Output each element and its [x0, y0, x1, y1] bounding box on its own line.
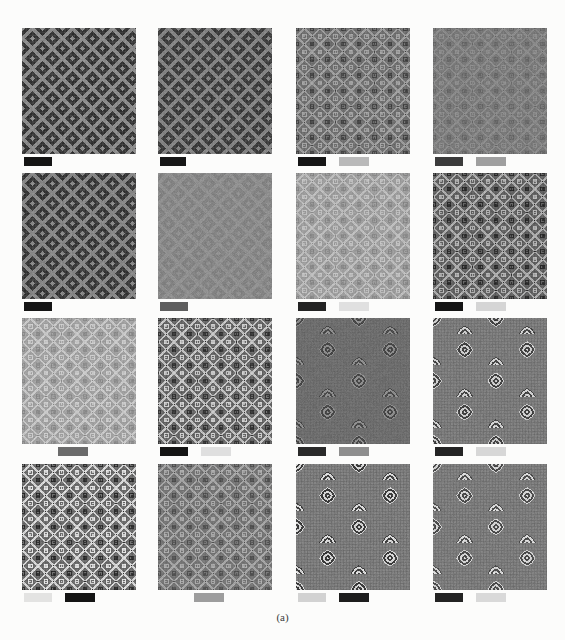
dark-scale-bar [339, 593, 369, 602]
dark-scale-bar [24, 157, 52, 166]
texture-canvas [296, 28, 410, 154]
dark-scale-bar [435, 302, 463, 311]
texture-canvas [158, 28, 272, 154]
light-scale-bar [339, 447, 369, 456]
texture-tile-r1c1 [22, 28, 136, 154]
dark-scale-bar [160, 157, 186, 166]
scale-bar-gap [160, 597, 194, 598]
texture-canvas [433, 28, 547, 154]
dark-scale-bar [65, 593, 95, 602]
scale-bar-row-r4c4 [435, 593, 506, 602]
scale-bar-gap [463, 306, 476, 307]
scale-bar-row-r4c1 [24, 593, 95, 602]
scale-bar-row-r4c3 [298, 593, 369, 602]
light-scale-bar-faded [201, 447, 231, 456]
texture-tile-r2c3 [296, 173, 410, 299]
scale-bar-row-r4c2 [160, 593, 224, 602]
texture-canvas [296, 173, 410, 299]
scale-bar-row-r3c3 [298, 447, 369, 456]
texture-canvas [158, 464, 272, 590]
texture-canvas [296, 464, 410, 590]
scale-bar-row-r2c3 [298, 302, 369, 311]
texture-tile-r1c2 [158, 28, 272, 154]
dark-scale-bar [24, 302, 52, 311]
scale-bar-row-r1c2 [160, 157, 186, 166]
texture-tile-r3c4 [433, 318, 547, 444]
scale-bar-row-r1c1 [24, 157, 52, 166]
scale-bar-gap [326, 451, 339, 452]
texture-tile-r2c4 [433, 173, 547, 299]
dark-scale-bar [160, 302, 188, 311]
texture-tile-r3c3 [296, 318, 410, 444]
mid-scale-bar [58, 447, 88, 456]
texture-tile-r4c2 [158, 464, 272, 590]
dark-scale-bar [435, 157, 463, 166]
scale-bar-row-r2c1 [24, 302, 52, 311]
mid-scale-bar [194, 593, 224, 602]
texture-tile-r1c3 [296, 28, 410, 154]
texture-canvas [22, 28, 136, 154]
texture-canvas [433, 464, 547, 590]
dark-scale-bar [298, 302, 326, 311]
figure-panel-a: (a) [0, 0, 565, 640]
light-scale-bar [476, 593, 506, 602]
light-scale-bar [298, 593, 326, 602]
texture-tile-r4c1 [22, 464, 136, 590]
scale-bar-row-r2c4 [435, 302, 506, 311]
light-scale-bar [339, 157, 369, 166]
texture-canvas [433, 318, 547, 444]
scale-bar-row-r1c4 [435, 157, 506, 166]
texture-tile-r4c4 [433, 464, 547, 590]
scale-bar-row-r1c3 [298, 157, 369, 166]
light-scale-bar-faded [24, 593, 52, 602]
light-scale-bar [476, 302, 506, 311]
texture-tile-r3c1 [22, 318, 136, 444]
dark-scale-bar [298, 447, 326, 456]
figure-caption: (a) [0, 611, 565, 623]
dark-scale-bar [435, 447, 463, 456]
scale-bar-row-r3c4 [435, 447, 506, 456]
dark-scale-bar [435, 593, 463, 602]
scale-bar-gap [463, 161, 476, 162]
texture-tile-r4c3 [296, 464, 410, 590]
texture-canvas [158, 318, 272, 444]
texture-tile-r2c2 [158, 173, 272, 299]
scale-bar-gap [463, 597, 476, 598]
scale-bar-gap [326, 597, 339, 598]
scale-bar-row-r3c1 [24, 447, 88, 456]
light-scale-bar [476, 447, 506, 456]
texture-canvas [22, 318, 136, 444]
texture-canvas [433, 173, 547, 299]
dark-scale-bar [160, 447, 188, 456]
texture-canvas [22, 464, 136, 590]
scale-bar-gap [326, 306, 339, 307]
scale-bar-gap [463, 451, 476, 452]
texture-canvas [296, 318, 410, 444]
scale-bar-gap [188, 451, 201, 452]
texture-canvas [158, 173, 272, 299]
light-scale-bar [476, 157, 506, 166]
scale-bar-gap [52, 597, 65, 598]
scale-bar-row-r3c2 [160, 447, 231, 456]
texture-tile-r1c4 [433, 28, 547, 154]
texture-tile-r3c2 [158, 318, 272, 444]
dark-scale-bar [298, 157, 326, 166]
scale-bar-gap [326, 161, 339, 162]
light-scale-bar [339, 302, 369, 311]
scale-bar-gap [24, 451, 58, 452]
texture-tile-r2c1 [22, 173, 136, 299]
texture-canvas [22, 173, 136, 299]
scale-bar-row-r2c2 [160, 302, 188, 311]
